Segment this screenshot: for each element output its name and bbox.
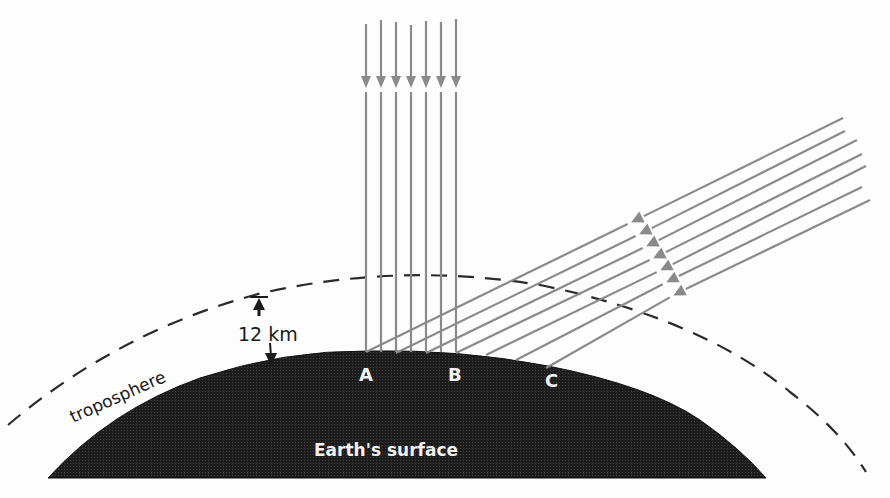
- arrow-down-icon: [361, 76, 371, 88]
- oblique-ray: [652, 131, 845, 228]
- oblique-ray: [396, 236, 636, 353]
- arrow-icon: [631, 212, 644, 223]
- arrow-down-icon: [421, 76, 431, 88]
- thickness-label: 12 km: [238, 323, 298, 345]
- oblique-ray: [659, 140, 857, 240]
- arrow-icon: [653, 248, 666, 259]
- arrow-down-icon: [391, 76, 401, 88]
- oblique-ray: [666, 154, 862, 252]
- insolation-diagram: 12 km troposphere Earth's surface A B C: [0, 0, 890, 498]
- arrow-icon: [666, 272, 679, 283]
- arrow-icon: [673, 285, 686, 296]
- point-a-label: A: [359, 364, 373, 385]
- earth-surface-label: Earth's surface: [314, 440, 458, 460]
- oblique-ray: [546, 297, 670, 368]
- arrow-down-icon: [406, 76, 416, 88]
- point-b-label: B: [448, 364, 462, 385]
- oblique-ray: [426, 248, 643, 353]
- arrow-down-icon: [436, 76, 446, 88]
- arrow-icon: [639, 224, 652, 235]
- arrow-icon: [646, 236, 659, 247]
- oblique-ray: [486, 272, 657, 355]
- vertical-rays: [361, 19, 461, 352]
- oblique-ray: [644, 118, 843, 216]
- arrow-down-icon: [376, 76, 386, 88]
- oblique-ray: [516, 284, 663, 360]
- point-c-label: C: [545, 370, 558, 391]
- arrow-icon: [660, 260, 673, 271]
- arrow-down-icon: [451, 76, 461, 88]
